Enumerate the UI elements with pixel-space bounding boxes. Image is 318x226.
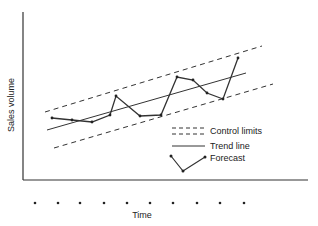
time-dot bbox=[34, 202, 37, 205]
legend-trend-label: Trend line bbox=[210, 141, 250, 151]
forecast-point bbox=[237, 57, 240, 60]
legend-forecast-swatch bbox=[171, 156, 205, 171]
time-dot bbox=[103, 202, 106, 205]
forecast-point bbox=[109, 114, 112, 117]
legend-control-limits-label: Control limits bbox=[210, 126, 263, 136]
forecast-point bbox=[115, 95, 118, 98]
time-dot bbox=[243, 202, 246, 205]
time-dot bbox=[57, 202, 60, 205]
forecast-point bbox=[71, 119, 74, 122]
time-dots bbox=[34, 202, 246, 205]
y-axis-label: Sales volume bbox=[6, 78, 16, 132]
chart-canvas: Sales volume Control limits Trend line F… bbox=[0, 0, 318, 226]
upper-control-limit bbox=[45, 46, 262, 112]
lower-control-limit bbox=[54, 84, 273, 148]
time-dot bbox=[79, 202, 82, 205]
forecast-point bbox=[222, 98, 225, 101]
trend-line bbox=[47, 73, 246, 130]
forecast-point bbox=[160, 114, 163, 117]
forecast-point bbox=[91, 121, 94, 124]
time-dot bbox=[219, 202, 222, 205]
time-dot bbox=[126, 202, 129, 205]
forecast-line bbox=[52, 58, 238, 122]
legend: Control limits Trend line Forecast bbox=[170, 126, 263, 173]
time-dot bbox=[172, 202, 175, 205]
forecast-point bbox=[176, 76, 179, 79]
forecast-point bbox=[51, 117, 54, 120]
x-axis-label: Time bbox=[132, 210, 152, 220]
forecast-point bbox=[206, 92, 209, 95]
forecast-point bbox=[139, 115, 142, 118]
forecast-point bbox=[192, 79, 195, 82]
forecast-series bbox=[51, 57, 240, 124]
legend-forecast-label: Forecast bbox=[210, 153, 246, 163]
time-dot bbox=[196, 202, 199, 205]
time-dot bbox=[149, 202, 152, 205]
